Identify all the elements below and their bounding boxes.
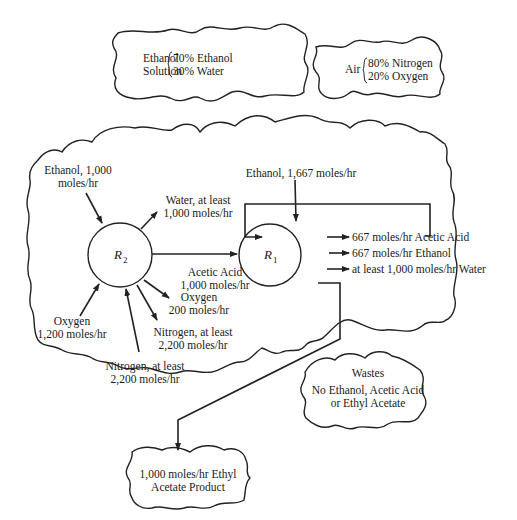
air-label: Air (345, 63, 361, 75)
r2-ethanol-in-arrow (86, 193, 102, 223)
product-line1: 1,000 moles/hr Ethyl (140, 468, 237, 481)
r1-ethanol-out-label: 667 moles/hr Ethanol (352, 247, 451, 259)
r2-oxygen-out-line2: 200 moles/hr (169, 304, 230, 316)
ethanol-solution-comp2: 30% Water (173, 65, 224, 77)
r2-ethanol-in-line1: Ethanol, 1,000 (44, 164, 112, 177)
r2-water-out-arrow (141, 212, 157, 229)
r2-oxygen-in-line2: 1,200 moles/hr (38, 328, 107, 341)
r2-oxygen-in-arrow (80, 284, 99, 316)
reactor-r1-subscript: 1 (273, 255, 278, 265)
r2-water-out-line1: Water, at least (166, 194, 232, 207)
wastes-line2: or Ethyl Acetate (331, 397, 406, 410)
r1-water-out-label: at least 1,000 moles/hr Water (352, 263, 486, 276)
r2-nitrogen-out-line2: 2,200 moles/hr (159, 339, 228, 352)
air-comp2: 20% Oxygen (368, 70, 429, 83)
r2-nitrogen-out-arrow (137, 285, 157, 320)
product-line2: Acetate Product (151, 481, 226, 493)
reactor-r2-subscript: 2 (123, 255, 128, 265)
r2-oxygen-out-arrow (144, 280, 169, 298)
r1-ethanol-in-arrow (295, 180, 296, 221)
process-flow-diagram: Ethanol Solution 70% Ethanol 30% Water A… (0, 0, 517, 520)
r2-water-out-line2: 1,000 moles/hr (164, 207, 233, 220)
r1-acetic-out-label: 667 moles/hr Acetic Acid (352, 231, 469, 243)
r2-oxygen-out-line1: Oxygen (181, 291, 218, 304)
brace-icon (363, 58, 367, 83)
r2-acetic-out-line1: Acetic Acid (188, 266, 243, 278)
r2-ethanol-in-line2: moles/hr (58, 177, 98, 189)
reactor-r1-label: R (263, 247, 272, 262)
r2-oxygen-in-line1: Oxygen (54, 315, 91, 328)
r2-nitrogen-in-arrow (126, 289, 139, 352)
ethanol-solution-comp1: 70% Ethanol (173, 52, 233, 64)
r1-ethanol-in-label: Ethanol, 1,667 moles/hr (246, 167, 357, 180)
r2-nitrogen-in-line1: Nitrogen, at least (106, 360, 186, 373)
wastes-title: Wastes (352, 367, 385, 379)
reactor-r2-label: R (113, 247, 122, 262)
r2-nitrogen-in-line2: 2,200 moles/hr (111, 373, 180, 386)
air-comp1: 80% Nitrogen (368, 57, 433, 70)
r2-nitrogen-out-line1: Nitrogen, at least (154, 326, 234, 339)
wastes-line1: No Ethanol, Acetic Acid (312, 384, 425, 397)
